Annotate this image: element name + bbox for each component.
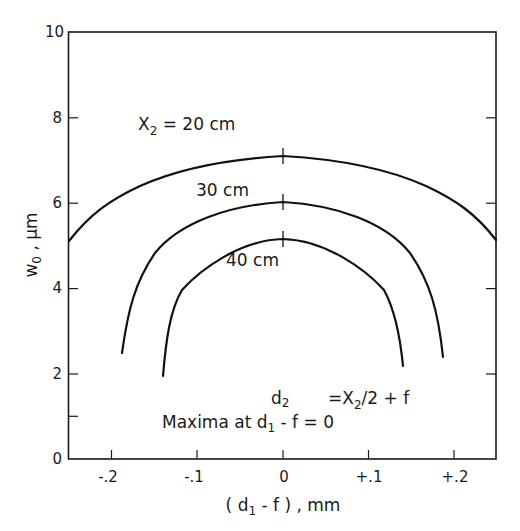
x-tick-label: -.1 [184, 468, 204, 486]
y-tick-labels: 0 2 4 6 8 10 [45, 23, 64, 468]
y-tick-label: 4 [52, 279, 62, 297]
plot-frame [69, 32, 497, 459]
y-axis-label: w0 , μm [21, 212, 44, 277]
curve-30cm [122, 202, 443, 357]
y-tick-label: 10 [45, 23, 64, 41]
x-tick-labels: -.2 -.1 0 +.1 +.2 [98, 468, 468, 486]
y-tick-label: 2 [52, 365, 62, 383]
note-d2-formula: =X2/2 + f [328, 388, 410, 412]
x-axis-label: ( d1 - f ) , mm [226, 495, 341, 518]
curve-label-30cm: 30 cm [196, 180, 249, 200]
x-tick-label: 0 [279, 468, 289, 486]
chart: 0 2 4 6 8 10 -.2 -.1 0 +.1 +.2 ( d1 - f … [0, 0, 520, 531]
y-tick-label: 6 [52, 194, 62, 212]
y-tick-label: 0 [52, 450, 62, 468]
x-axis [112, 450, 455, 459]
x-tick-label: +.2 [442, 468, 469, 486]
curve-label-20cm: X2 = 20 cm [138, 114, 235, 138]
y-axis [69, 118, 497, 417]
note-maxima: Maxima at d1 - f = 0 [162, 412, 334, 435]
x-tick-label: +.1 [356, 468, 383, 486]
x-tick-label: -.2 [98, 468, 118, 486]
curve-label-40cm: 40 cm [226, 250, 279, 270]
curve-40cm [163, 239, 403, 376]
note-d2: d2 [271, 388, 289, 410]
y-tick-label: 8 [52, 109, 62, 127]
